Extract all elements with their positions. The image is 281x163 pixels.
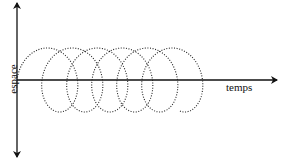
x-axis-label: temps	[226, 81, 252, 93]
y-axis-label: espace	[7, 59, 19, 99]
